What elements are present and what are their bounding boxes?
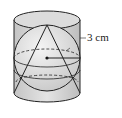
radius-label: 3 cm bbox=[87, 31, 109, 43]
cylinder-sphere-cone-diagram bbox=[0, 0, 122, 118]
